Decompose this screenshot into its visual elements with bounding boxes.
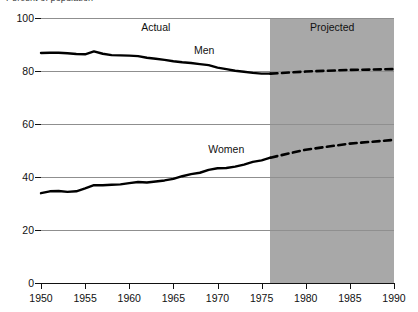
x-tick-mark-1965: [173, 283, 174, 289]
x-tick-label-1980: 1980: [294, 292, 317, 304]
series-line-women-actual: [41, 158, 270, 194]
series-label-women: Women: [208, 143, 244, 155]
x-tick-label-1950: 1950: [29, 292, 52, 304]
x-tick-mark-1970: [218, 283, 219, 289]
x-tick-label-1970: 1970: [206, 292, 229, 304]
y-tick-label-60: 60: [22, 118, 34, 130]
x-tick-label-1990: 1990: [382, 292, 405, 304]
y-tick-label-0: 0: [28, 277, 34, 289]
x-tick-mark-1950: [41, 283, 42, 289]
x-tick-mark-1990: [394, 283, 395, 289]
y-tick-label-40: 40: [22, 171, 34, 183]
region-label-actual: Actual: [141, 21, 170, 33]
chart-root: Percent of population 020406080100 19501…: [0, 0, 418, 312]
x-tick-label-1955: 1955: [73, 292, 96, 304]
y-tick-label-80: 80: [22, 65, 34, 77]
series-label-men: Men: [194, 44, 214, 56]
region-label-projected: Projected: [310, 21, 354, 33]
y-tick-label-20: 20: [22, 224, 34, 236]
x-tick-mark-1960: [129, 283, 130, 289]
chart-title: Percent of population: [6, 0, 93, 3]
x-tick-label-1975: 1975: [250, 292, 273, 304]
x-tick-label-1965: 1965: [162, 292, 185, 304]
x-tick-mark-1985: [350, 283, 351, 289]
series-line-women-projected: [270, 140, 394, 158]
x-tick-label-1960: 1960: [118, 292, 141, 304]
series-line-men-projected: [270, 69, 394, 74]
x-tick-mark-1975: [262, 283, 263, 289]
x-tick-mark-1955: [85, 283, 86, 289]
x-tick-mark-1980: [306, 283, 307, 289]
series-line-men-actual: [41, 51, 270, 73]
x-tick-label-1985: 1985: [338, 292, 361, 304]
y-tick-label-100: 100: [16, 12, 34, 24]
plot-area: 020406080100 195019551960196519701975198…: [41, 18, 394, 283]
